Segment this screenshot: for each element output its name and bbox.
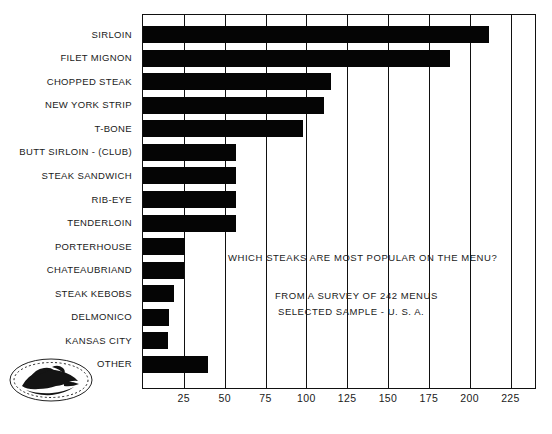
bar-row: [143, 47, 535, 71]
x-tick-label-225: 225: [501, 392, 520, 404]
x-tick-label-50: 50: [218, 392, 230, 404]
category-label: TENDERLOIN: [0, 217, 132, 228]
annotation-source-line-1: FROM A SURVEY OF 242 MENUS: [275, 290, 438, 301]
category-label: NEW YORK STRIP: [0, 99, 132, 110]
bar-row: [143, 188, 535, 212]
category-label: PORTERHOUSE: [0, 241, 132, 252]
category-label: T-BONE: [0, 123, 132, 134]
bar-chart: SIRLOINFILET MIGNONCHOPPED STEAKNEW YORK…: [0, 0, 552, 434]
category-label: STEAK KEBOBS: [0, 288, 132, 299]
bar: [143, 285, 174, 302]
x-tick-label-100: 100: [297, 392, 316, 404]
category-label: FILET MIGNON: [0, 52, 132, 63]
bar-row: [143, 211, 535, 235]
bar-row: [143, 164, 535, 188]
x-tick-label-150: 150: [379, 392, 398, 404]
category-label: CHATEAUBRIAND: [0, 264, 132, 275]
x-tick-label-125: 125: [338, 392, 357, 404]
bar: [143, 238, 185, 255]
bar-row: [143, 117, 535, 141]
annotation-source-line-2: SELECTED SAMPLE - U. S. A.: [278, 306, 424, 317]
bar: [143, 97, 324, 114]
bar-row: [143, 141, 535, 165]
bar-rows: [143, 15, 535, 388]
x-tick-label-175: 175: [419, 392, 438, 404]
bar: [143, 144, 236, 161]
category-label: RIB-EYE: [0, 194, 132, 205]
bar: [143, 73, 331, 90]
bar: [143, 309, 169, 326]
category-label: CHOPPED STEAK: [0, 76, 132, 87]
bar-row: [143, 352, 535, 376]
bar: [143, 50, 450, 67]
x-tick-label-25: 25: [178, 392, 190, 404]
category-label: BUTT SIRLOIN - (CLUB): [0, 146, 132, 157]
annotation-question: WHICH STEAKS ARE MOST POPULAR ON THE MEN…: [228, 252, 497, 263]
category-label: DELMONICO: [0, 311, 132, 322]
bar-row: [143, 23, 535, 47]
bar: [143, 191, 236, 208]
bar: [143, 215, 236, 232]
bar: [143, 262, 184, 279]
bar: [143, 332, 168, 349]
category-label: KANSAS CITY: [0, 335, 132, 346]
bar: [143, 356, 208, 373]
category-label: SIRLOIN: [0, 29, 132, 40]
x-tick-label-75: 75: [259, 392, 271, 404]
x-tick-label-200: 200: [460, 392, 479, 404]
bar: [143, 26, 489, 43]
steak-platter-logo-icon: [8, 356, 94, 404]
category-label: STEAK SANDWICH: [0, 170, 132, 181]
bar-row: [143, 94, 535, 118]
bar: [143, 167, 236, 184]
bar-row: [143, 329, 535, 353]
bar-row: [143, 70, 535, 94]
bar: [143, 120, 303, 137]
category-axis-labels: SIRLOINFILET MIGNONCHOPPED STEAKNEW YORK…: [0, 15, 138, 388]
